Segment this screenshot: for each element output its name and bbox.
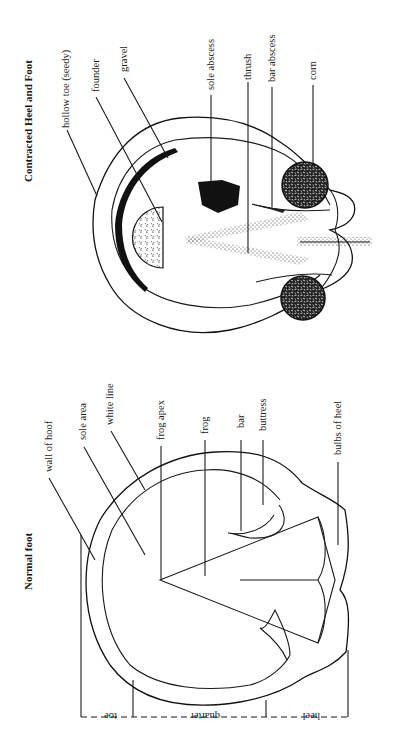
dim-heel: heel — [302, 711, 320, 722]
normal-foot-figure: Normal foot toe quarter heel wa — [22, 383, 348, 722]
dim-quarter: quarter — [190, 711, 220, 722]
label-frog: frog — [199, 416, 210, 434]
label-sole-abscess: sole abscess — [205, 39, 216, 90]
sole-abscess-mark — [198, 180, 240, 213]
buttress-upper — [228, 505, 284, 538]
label-bar-abscess: bar abscess — [266, 34, 277, 82]
label-gravel: gravel — [118, 46, 129, 72]
label-frog-apex: frog apex — [155, 399, 166, 440]
label-founder: founder — [90, 59, 101, 92]
label-white-line: white line — [104, 383, 115, 425]
label-sole-area: sole area — [77, 403, 88, 440]
hoof-diagram: Contracted Heel and Foot — [0, 0, 397, 741]
bar-abscess-mark — [253, 204, 285, 213]
frog-heel-lobes — [318, 517, 325, 643]
corn-mark-lower — [281, 276, 325, 320]
corn-mark-upper — [282, 162, 328, 208]
label-corn: corn — [307, 61, 318, 80]
label-thrush: thrush — [242, 53, 253, 80]
normal-outer-wall — [86, 452, 348, 706]
contracted-foot-figure: Contracted Heel and Foot — [22, 34, 372, 332]
buttress-lower — [260, 610, 290, 660]
contracted-bar-upper — [252, 204, 330, 211]
label-wall-of-hoof: wall of hoof — [43, 420, 54, 472]
contracted-heel-cleft-upper — [330, 190, 338, 230]
normal-foot-title: Normal foot — [22, 533, 34, 590]
contracted-foot-title: Contracted Heel and Foot — [22, 60, 34, 182]
label-bulbs-of-heel: bulbs of heel — [332, 401, 343, 455]
label-buttress: buttress — [257, 398, 268, 431]
label-bar: bar — [235, 414, 246, 428]
dim-toe: toe — [104, 711, 117, 722]
normal-white-line — [102, 470, 290, 689]
label-hollow-toe: hollow toe (seedy) — [60, 49, 72, 128]
